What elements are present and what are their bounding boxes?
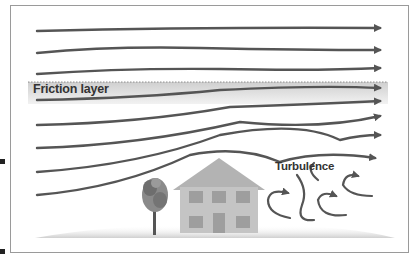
wind-diagram <box>0 0 419 257</box>
turbulence-label: Turbulence <box>275 160 334 172</box>
eddy-3 <box>318 194 346 216</box>
streamline-6 <box>37 116 380 148</box>
friction-layer-label: Friction layer <box>33 82 109 96</box>
eddy-4 <box>343 175 372 196</box>
streamline-1 <box>37 28 380 31</box>
eddy-2 <box>297 175 314 220</box>
streamline-2 <box>37 48 380 53</box>
streamline-3 <box>37 68 380 74</box>
house-icon <box>173 158 265 233</box>
eddy-1 <box>268 192 290 218</box>
streamline-5 <box>37 101 380 125</box>
